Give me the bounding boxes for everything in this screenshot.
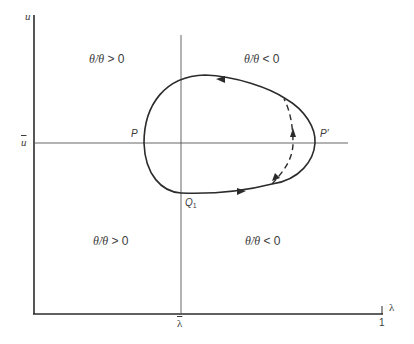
x-axis-label: λ bbox=[389, 302, 394, 313]
region-lhs: θ̇/θ bbox=[89, 52, 104, 66]
region-label-bottom-left: θ̇/θ > 0 bbox=[93, 235, 128, 247]
lambda-bar-label: λ bbox=[177, 318, 182, 329]
region-rel: < 0 bbox=[259, 52, 279, 66]
y-axis-label: u bbox=[25, 11, 31, 22]
phase-diagram bbox=[0, 0, 414, 344]
point-p-prime-label: P′ bbox=[320, 129, 329, 139]
region-label-top-left: θ̇/θ > 0 bbox=[89, 53, 124, 65]
region-rel: < 0 bbox=[260, 234, 280, 248]
region-rel: > 0 bbox=[108, 234, 128, 248]
x-end-tick-label: 1 bbox=[379, 318, 385, 328]
arrow-up-icon bbox=[290, 128, 296, 137]
limit-cycle-curve bbox=[144, 75, 315, 193]
u-bar-label: u bbox=[21, 137, 27, 148]
region-label-top-right: θ̇/θ < 0 bbox=[244, 53, 279, 65]
region-lhs: θ̇/θ bbox=[245, 234, 260, 248]
region-rel: > 0 bbox=[104, 52, 124, 66]
region-lhs: θ̇/θ bbox=[244, 52, 259, 66]
dashed-path bbox=[272, 99, 293, 184]
point-q1-label: Q1 bbox=[185, 198, 197, 209]
region-label-bottom-right: θ̇/θ < 0 bbox=[245, 235, 280, 247]
point-q1-sub: 1 bbox=[193, 202, 197, 209]
point-q1-main: Q bbox=[185, 197, 193, 208]
point-p-label: P bbox=[131, 129, 138, 139]
region-lhs: θ̇/θ bbox=[93, 234, 108, 248]
